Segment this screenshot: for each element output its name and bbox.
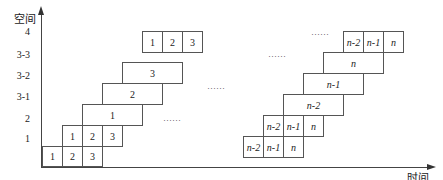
stage2-task-n: n: [303, 115, 324, 137]
stage2-task-n-2: n-2: [263, 115, 284, 137]
y-label-4: 4: [0, 26, 30, 37]
stage1-task-n-2: n-2: [243, 136, 264, 158]
y-label-3-1: 3-1: [0, 91, 30, 102]
ellipsis-stage3-2: ……: [207, 81, 225, 91]
stage1-task-3: 3: [82, 146, 103, 167]
stage4-task-n-2: n-2: [343, 31, 364, 53]
y-label-3-2: 3-2: [0, 70, 30, 81]
stage3-3-task-3: 3: [122, 62, 183, 84]
stage3-1-task-1: 1: [82, 104, 143, 126]
stage4-task-1: 1: [142, 31, 163, 53]
y-axis-title: 空间: [14, 10, 36, 26]
ellipsis-stage2: ……: [163, 113, 181, 123]
y-label-3-3: 3-3: [0, 49, 30, 60]
y-label-2: 2: [0, 113, 30, 124]
stage3-2-task-2: 2: [102, 83, 163, 105]
y-axis: [41, 10, 42, 168]
stage3-1-task-n-2: n-2: [283, 94, 344, 116]
x-axis: [41, 167, 429, 168]
stage2-task-3: 3: [102, 125, 123, 147]
stage1-task-2: 2: [62, 146, 83, 167]
stage4-task-n-1: n-1: [363, 31, 384, 53]
stage4-task-n: n: [383, 31, 404, 53]
y-label-1: 1: [0, 133, 30, 144]
x-axis-title: 时间: [407, 169, 429, 180]
y-axis-arrow-icon: [38, 6, 44, 15]
stage2-task-1: 1: [62, 125, 83, 147]
stage4-task-3: 3: [182, 31, 203, 53]
ellipsis-stage4: ……: [311, 27, 329, 37]
ellipsis-stage3-3: ……: [268, 49, 286, 59]
stage1-task-n: n: [283, 136, 304, 158]
stage3-2-task-n-1: n-1: [303, 73, 364, 95]
stage3-3-task-n: n: [323, 52, 384, 74]
stage1-task-n-1: n-1: [263, 136, 284, 158]
stage2-task-n-1: n-1: [283, 115, 304, 137]
stage1-task-1: 1: [42, 146, 63, 167]
pipeline-space-time-diagram: 空间 时间 4 3-3 3-2 3-1 2 1 1 2 3 1 2 3 1 2 …: [0, 0, 443, 180]
stage4-task-2: 2: [162, 31, 183, 53]
stage2-task-2: 2: [82, 125, 103, 147]
